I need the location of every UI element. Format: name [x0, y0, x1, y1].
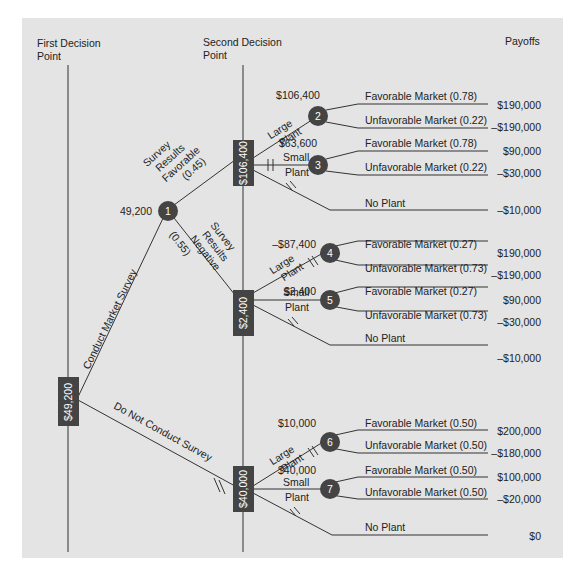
header-payoffs: Payoffs — [505, 35, 540, 47]
outcome-label: Unfavorable Market (0.50) — [365, 439, 487, 451]
payoff: –$10,000 — [497, 204, 541, 216]
payoff: –$30,000 — [497, 316, 541, 328]
payoff: $90,000 — [503, 294, 541, 306]
payoff: $90,000 — [503, 145, 541, 157]
chance-node-3-ev: $63,600 — [279, 137, 317, 149]
chance-node-7-number: 7 — [327, 483, 333, 495]
label-small-plant: Small — [283, 476, 309, 488]
outcome-label: Unfavorable Market (0.22) — [365, 114, 487, 126]
chance-node-5-number: 5 — [327, 294, 333, 306]
payoff: $200,000 — [497, 425, 541, 437]
label-no-plant: No Plant — [365, 332, 405, 344]
chance-node-6-number: 6 — [327, 436, 333, 448]
label-small-plant: Small — [283, 151, 309, 163]
header-second-line2: Point — [203, 49, 227, 61]
outcome-label: Favorable Market (0.27) — [365, 285, 477, 297]
chance-node-3-number: 3 — [315, 159, 321, 171]
header-first-line1: First Decision — [37, 37, 101, 49]
chance-node-1-ev: 49,200 — [120, 205, 152, 217]
decision-node-root-value: $49,200 — [62, 383, 74, 421]
chance-node-4-number: 4 — [327, 247, 333, 259]
outcome-label: Unfavorable Market (0.22) — [365, 161, 487, 173]
chance-node-4-ev: –$87,400 — [272, 238, 316, 250]
outcome-label: Unfavorable Market (0.73) — [365, 262, 487, 274]
outcome-label: Unfavorable Market (0.50) — [365, 486, 487, 498]
payoff: –$30,000 — [497, 167, 541, 179]
header-second-line1: Second Decision — [203, 36, 282, 48]
decision-node-nosurvey-value: $40,000 — [237, 470, 249, 508]
outcome-label: Favorable Market (0.78) — [365, 90, 477, 102]
label-small-plant: Plant — [285, 301, 309, 313]
label-small-plant: Plant — [285, 166, 309, 178]
chance-node-2-number: 2 — [315, 110, 321, 122]
payoff: –$20,000 — [497, 493, 541, 505]
outcome-label: Favorable Market (0.78) — [365, 137, 477, 149]
chance-node-5-ev: $2,400 — [284, 285, 316, 297]
payoff: –$180,000 — [491, 447, 541, 459]
payoff: –$190,000 — [491, 121, 541, 133]
payoff: $100,000 — [497, 471, 541, 483]
chance-node-6-ev: $10,000 — [278, 417, 316, 429]
payoff: –$10,000 — [497, 352, 541, 364]
outcome-label: Favorable Market (0.27) — [365, 238, 477, 250]
payoff: $0 — [529, 530, 541, 542]
outcome-label: Unfavorable Market (0.73) — [365, 309, 487, 321]
chance-node-7-ev: $40,000 — [278, 464, 316, 476]
decision-node-favorable-value: $106,400 — [237, 141, 249, 185]
header-first-line2: Point — [37, 50, 61, 62]
decision-node-negative-value: $2,400 — [237, 297, 249, 329]
label-no-plant: No Plant — [365, 197, 405, 209]
chance-node-2-ev: $106,400 — [276, 89, 320, 101]
outcome-label: Favorable Market (0.50) — [365, 464, 477, 476]
payoff: $190,000 — [497, 247, 541, 259]
label-no-plant: No Plant — [365, 521, 405, 533]
chance-node-1-number: 1 — [165, 205, 171, 217]
payoff: –$190,000 — [491, 269, 541, 281]
payoff: $190,000 — [497, 99, 541, 111]
label-small-plant: Plant — [285, 491, 309, 503]
outcome-label: Favorable Market (0.50) — [365, 417, 477, 429]
decision-tree: First Decision Point Second Decision Poi… — [0, 0, 580, 587]
